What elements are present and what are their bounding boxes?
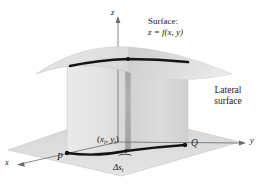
surface-sample-dot [126, 57, 130, 61]
sample-point-close-paren: ) [116, 134, 119, 144]
figure-canvas: z x y Surface: z = f(x, y) Lateral surfa… [0, 0, 263, 189]
surface-caption: Surface: z = f(x, y) [148, 16, 183, 37]
sample-point-label: (xi, yi) [97, 134, 119, 145]
surface-eq-args: (x, y) [165, 27, 183, 37]
arc-subscript: i [122, 167, 124, 173]
point-q-label: Q [191, 138, 198, 149]
lateral-surface-label: Lateral surface [199, 85, 257, 106]
y-axis-label: y [250, 136, 254, 146]
surface-eq-equals: = [152, 27, 163, 37]
surface-caption-line2: z = f(x, y) [148, 27, 183, 37]
sample-point-dot [124, 149, 127, 152]
point-q-dot [183, 143, 187, 147]
point-p-label: P [57, 152, 63, 163]
x-axis-label: x [5, 158, 9, 168]
surface-caption-line1: Surface: [148, 16, 178, 26]
point-p-dot [65, 151, 69, 155]
lateral-label-line1: Lateral [215, 85, 242, 95]
lateral-label-line2: surface [214, 96, 241, 106]
arc-length-label: Δsi [113, 162, 123, 173]
z-axis-label: z [111, 8, 114, 18]
